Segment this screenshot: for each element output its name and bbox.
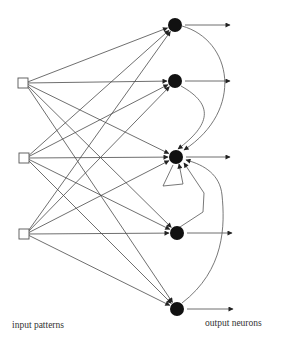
- input-node-i1: [18, 78, 28, 88]
- input-node-i2: [19, 153, 29, 163]
- output-neuron-o4: [170, 226, 184, 240]
- feedback-o3-o3: [163, 164, 183, 186]
- feedback-o2-o3: [178, 86, 204, 149]
- connection-i2-o3: [26, 157, 168, 158]
- connection-i1-o5: [25, 83, 173, 302]
- feedback-connections: [163, 26, 225, 303]
- connection-i1-o4: [25, 83, 171, 227]
- feedback-o5-o3: [182, 160, 223, 303]
- input-node-i3: [19, 229, 29, 239]
- input-patterns-label: input patterns: [12, 320, 64, 330]
- connection-i1-o1: [25, 28, 168, 83]
- network-diagram: [0, 0, 282, 348]
- output-neuron-o5: [170, 302, 184, 316]
- connection-i3-o2: [26, 87, 169, 234]
- output-neuron-o3: [169, 150, 183, 164]
- output-neuron-o2: [168, 74, 182, 88]
- connection-i2-o5: [26, 158, 171, 303]
- output-neuron-o1: [168, 18, 182, 32]
- feedforward-connections: [25, 28, 173, 306]
- connection-i3-o1: [26, 32, 170, 235]
- connection-i1-o3: [25, 83, 169, 154]
- feedback-o4-o3: [180, 163, 204, 227]
- output-arrows: [185, 25, 233, 309]
- connection-i2-o2: [26, 85, 168, 158]
- connection-i3-o4: [26, 233, 169, 234]
- connection-i2-o4: [26, 158, 170, 229]
- output-neuron-nodes: [168, 18, 184, 316]
- connection-i1-o2: [25, 81, 167, 83]
- feedback-o1-o3: [182, 26, 225, 150]
- connection-i3-o3: [26, 161, 169, 234]
- connection-i3-o5: [26, 234, 170, 305]
- input-pattern-nodes: [18, 78, 29, 239]
- output-neurons-label: output neurons: [205, 318, 262, 328]
